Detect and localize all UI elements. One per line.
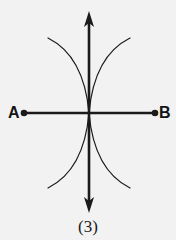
point-b-dot bbox=[152, 110, 159, 117]
figure-caption: (3) bbox=[0, 218, 176, 235]
point-label-b: B bbox=[159, 105, 171, 121]
upper-right-branch-curve bbox=[89, 38, 130, 113]
point-a-dot bbox=[21, 110, 28, 117]
figure-container: A B (3) bbox=[0, 0, 176, 240]
point-label-a: A bbox=[8, 105, 20, 121]
lower-right-branch-curve bbox=[89, 113, 130, 188]
upper-left-branch-curve bbox=[48, 38, 89, 113]
geometry-figure-canvas bbox=[0, 0, 176, 240]
lower-left-branch-curve bbox=[48, 113, 89, 188]
